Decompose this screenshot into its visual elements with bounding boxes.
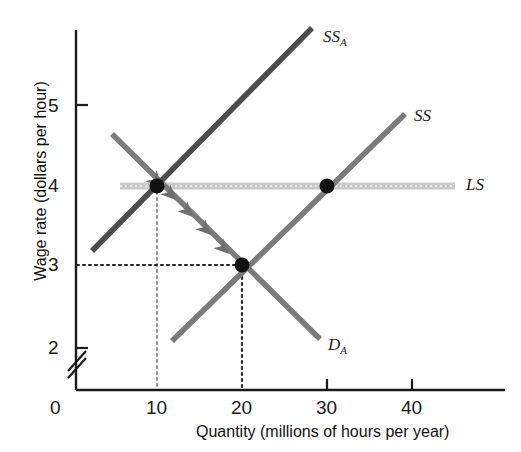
x-tick-label-30: 30	[316, 398, 337, 417]
point-equilibrium-c	[320, 179, 335, 194]
y-tick-label-4: 4	[48, 176, 59, 195]
point-equilibrium-b	[235, 258, 250, 273]
y-axis-title: Wage rate (dollars per hour)	[32, 81, 49, 281]
x-axis-title: Quantity (millions of hours per year)	[196, 424, 449, 440]
y-tick-label-3: 3	[48, 255, 59, 274]
curve-demand-a	[112, 134, 320, 339]
curve-label-d-a-text: D	[328, 335, 340, 354]
x-tick-label-10: 10	[146, 398, 167, 417]
x-tick-label-40: 40	[401, 398, 422, 417]
y-tick-label-2: 2	[48, 338, 59, 357]
curve-label-ss: SS	[414, 107, 431, 124]
curve-ss-a	[92, 28, 312, 251]
curve-label-d-a: DA	[328, 336, 347, 356]
y-tick-label-5: 5	[48, 96, 59, 115]
curve-label-ss-a: SSA	[323, 28, 347, 48]
economics-labor-market-chart: Wage rate (dollars per hour) 5 4 3 2 0 1…	[0, 0, 521, 452]
x-tick-label-20: 20	[231, 398, 252, 417]
point-equilibrium-a	[150, 179, 165, 194]
curve-label-ls: LS	[466, 176, 484, 193]
x-tick-label-0: 0	[50, 398, 61, 417]
chart-plot-area	[0, 0, 521, 452]
curve-label-ss-a-text: SS	[323, 27, 340, 46]
curve-label-d-a-subscript: A	[340, 344, 347, 356]
curve-label-ss-a-subscript: A	[340, 36, 347, 48]
